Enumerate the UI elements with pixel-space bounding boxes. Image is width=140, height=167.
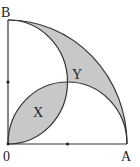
midpoint-oa-dot: [66, 142, 69, 145]
label-a: A: [121, 149, 132, 164]
origin-dot: [7, 143, 10, 146]
geometry-diagram: B 0 A X Y: [0, 0, 140, 167]
midpoint-ob-dot: [6, 80, 9, 83]
label-o: 0: [3, 149, 10, 164]
label-y: Y: [72, 67, 82, 82]
label-x: X: [33, 105, 43, 120]
label-b: B: [1, 5, 10, 20]
